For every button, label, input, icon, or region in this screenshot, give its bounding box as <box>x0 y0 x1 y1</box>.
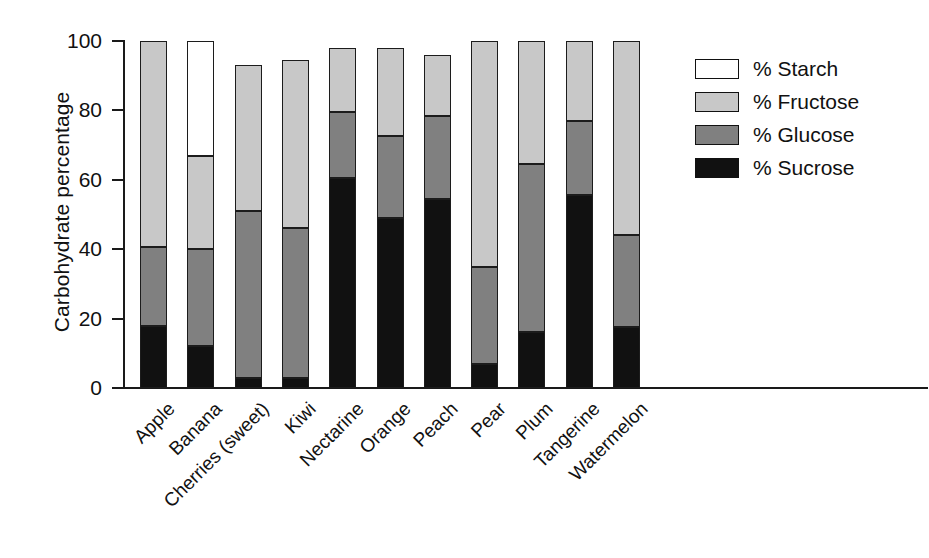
y-tick-label-wrap: 100 <box>44 41 102 42</box>
segment-glucose[interactable] <box>377 136 404 218</box>
segment-glucose[interactable] <box>235 211 262 378</box>
segment-sucrose[interactable] <box>329 178 356 388</box>
segment-glucose[interactable] <box>471 267 498 364</box>
segment-sucrose[interactable] <box>187 346 214 388</box>
y-tick-label: 100 <box>44 30 102 51</box>
segment-fructose[interactable] <box>566 41 593 121</box>
segment-glucose[interactable] <box>566 121 593 196</box>
segment-glucose[interactable] <box>187 249 214 346</box>
bar-orange[interactable] <box>377 41 404 388</box>
legend-label: % Starch <box>753 57 838 81</box>
y-tick-mark <box>112 318 123 320</box>
segment-starch[interactable] <box>187 41 214 156</box>
y-tick-label-wrap: 20 <box>44 319 102 320</box>
bar-plum[interactable] <box>518 41 545 388</box>
bar-banana[interactable] <box>187 41 214 388</box>
legend-label: % Sucrose <box>753 156 855 180</box>
legend-label: % Fructose <box>753 90 859 114</box>
y-tick-label: 40 <box>44 238 102 259</box>
segment-fructose[interactable] <box>471 41 498 267</box>
y-tick-label-wrap: 40 <box>44 249 102 250</box>
segment-fructose[interactable] <box>187 156 214 250</box>
segment-sucrose[interactable] <box>282 378 309 388</box>
segment-sucrose[interactable] <box>377 218 404 388</box>
segment-sucrose[interactable] <box>566 195 593 388</box>
legend-item[interactable]: % Starch <box>695 52 859 85</box>
legend-swatch-sucrose <box>695 158 739 178</box>
legend-swatch-glucose <box>695 125 739 145</box>
segment-fructose[interactable] <box>329 48 356 112</box>
segment-fructose[interactable] <box>613 41 640 235</box>
segment-fructose[interactable] <box>424 55 451 116</box>
bar-nectarine[interactable] <box>329 41 356 388</box>
legend-label: % Glucose <box>753 123 855 147</box>
bar-apple[interactable] <box>140 41 167 388</box>
legend-item[interactable]: % Glucose <box>695 118 859 151</box>
segment-fructose[interactable] <box>377 48 404 136</box>
segment-sucrose[interactable] <box>518 332 545 388</box>
segment-glucose[interactable] <box>518 164 545 332</box>
segment-fructose[interactable] <box>235 65 262 211</box>
chart-legend: % Starch% Fructose% Glucose% Sucrose <box>695 52 859 184</box>
y-tick-mark <box>112 387 123 389</box>
bar-watermelon[interactable] <box>613 41 640 388</box>
y-tick-label-wrap: 60 <box>44 180 102 181</box>
segment-sucrose[interactable] <box>424 199 451 388</box>
segment-fructose[interactable] <box>282 60 309 228</box>
y-tick-mark <box>112 248 123 250</box>
segment-sucrose[interactable] <box>140 326 167 388</box>
y-tick-label-wrap: 80 <box>44 110 102 111</box>
y-tick-label: 0 <box>44 377 102 398</box>
y-axis-title: Carbohydrate percentage <box>50 32 74 392</box>
segment-glucose[interactable] <box>282 228 309 377</box>
segment-sucrose[interactable] <box>235 378 262 388</box>
plot-area <box>127 41 672 388</box>
segment-glucose[interactable] <box>424 116 451 199</box>
y-tick-label: 60 <box>44 169 102 190</box>
segment-fructose[interactable] <box>518 41 545 164</box>
legend-swatch-fructose <box>695 92 739 112</box>
legend-item[interactable]: % Sucrose <box>695 151 859 184</box>
carbohydrate-stacked-bar-chart: Carbohydrate percentage 100806040200 App… <box>0 0 929 558</box>
y-tick-label-wrap: 0 <box>44 388 102 389</box>
y-tick-mark <box>112 179 123 181</box>
y-tick-label: 80 <box>44 99 102 120</box>
legend-item[interactable]: % Fructose <box>695 85 859 118</box>
segment-sucrose[interactable] <box>613 327 640 388</box>
segment-fructose[interactable] <box>140 41 167 247</box>
y-tick-mark <box>112 40 123 42</box>
bar-pear[interactable] <box>471 41 498 388</box>
bar-peach[interactable] <box>424 41 451 388</box>
y-axis-line <box>123 40 125 389</box>
bar-kiwi[interactable] <box>282 41 309 388</box>
bar-tangerine[interactable] <box>566 41 593 388</box>
legend-swatch-starch <box>695 59 739 79</box>
segment-sucrose[interactable] <box>471 364 498 388</box>
y-tick-mark <box>112 109 123 111</box>
y-tick-label: 20 <box>44 308 102 329</box>
segment-glucose[interactable] <box>140 247 167 325</box>
segment-glucose[interactable] <box>329 112 356 178</box>
bar-cherries-sweet[interactable] <box>235 41 262 388</box>
segment-glucose[interactable] <box>613 235 640 327</box>
